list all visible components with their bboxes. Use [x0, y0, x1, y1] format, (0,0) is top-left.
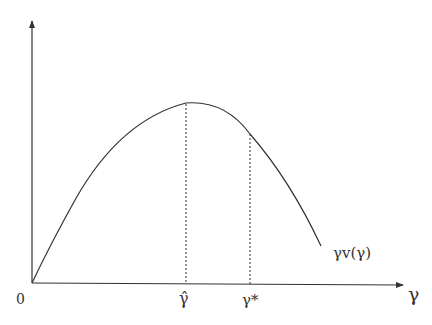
- x-axis-label: γ: [408, 285, 419, 304]
- x-axis: [32, 283, 403, 285]
- curve-gamma-v-gamma: [32, 103, 321, 283]
- gamma-hat-label: γ̂: [179, 291, 189, 307]
- diagram-canvas: [0, 0, 432, 325]
- origin-label: 0: [16, 292, 25, 306]
- curve-label: γv(γ): [333, 246, 371, 261]
- gamma-star-label: γ*: [242, 293, 258, 308]
